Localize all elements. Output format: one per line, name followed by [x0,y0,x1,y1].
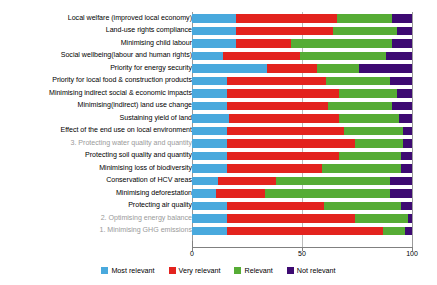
row-label: Minimising loss of biodiversity [2,164,192,173]
bar-track [192,114,412,123]
bar-segment-relevant [339,152,401,161]
legend-item[interactable]: Most relevant [101,266,154,275]
bar-track [192,27,412,36]
chart-row: Minimising deforestation [0,187,437,200]
bar-segment-most-relevant [192,214,227,223]
bar-segment-most-relevant [192,164,227,173]
bar-segment-not-relevant [390,77,412,86]
bar-segment-very-relevant [223,52,300,61]
bar-segment-very-relevant [267,64,318,73]
bar-track [192,89,412,98]
bar-segment-not-relevant [397,89,412,98]
legend-swatch-icon [234,267,241,274]
chart-row: Land-use rights compliance [0,25,437,38]
bar-segment-relevant [300,52,386,61]
row-label: Conservation of HCV areas [2,176,192,185]
bar-segment-very-relevant [227,164,322,173]
x-tick-label-0: 0 [190,250,194,257]
legend-item[interactable]: Relevant [234,266,272,275]
chart-row: 3. Protecting water quality and quantity [0,137,437,150]
bar-segment-most-relevant [192,89,227,98]
bar-segment-most-relevant [192,64,267,73]
bar-segment-relevant [322,164,401,173]
bar-segment-most-relevant [192,114,229,123]
chart-row: Sustaining yield of land [0,112,437,125]
bar-track [192,177,412,186]
legend-item[interactable]: Not relevant [287,266,336,275]
bar-segment-relevant [355,139,403,148]
bar-segment-very-relevant [227,227,383,236]
bar-segment-relevant [324,202,401,211]
bar-track [192,64,412,73]
bar-segment-relevant [326,77,390,86]
stacked-bar-chart: Local welfare (improved local economy)La… [0,0,437,285]
legend-label: Very relevant [179,266,221,275]
bar-track [192,14,412,23]
bar-segment-most-relevant [192,14,236,23]
bar-segment-not-relevant [390,189,412,198]
legend-label: Most relevant [111,266,154,275]
bar-segment-relevant [339,89,396,98]
row-label: Local welfare (improved local economy) [2,14,192,23]
bar-segment-most-relevant [192,139,227,148]
bar-segment-most-relevant [192,52,223,61]
bar-segment-very-relevant [216,189,264,198]
chart-row: Effect of the end use on local environme… [0,125,437,138]
bar-segment-relevant [333,27,397,36]
bar-segment-most-relevant [192,127,227,136]
bar-segment-not-relevant [392,102,412,111]
bar-segment-very-relevant [229,114,339,123]
bar-segment-very-relevant [227,77,326,86]
chart-row: Protecting air quality [0,200,437,213]
bar-segment-most-relevant [192,177,218,186]
bar-track [192,164,412,173]
bar-segment-not-relevant [403,127,412,136]
bar-track [192,77,412,86]
bar-segment-very-relevant [227,89,339,98]
bar-segment-most-relevant [192,102,227,111]
bar-segment-not-relevant [392,14,412,23]
bar-segment-not-relevant [359,64,412,73]
bar-segment-very-relevant [227,152,339,161]
bar-segment-very-relevant [236,14,337,23]
chart-row: Priority for local food & construction p… [0,75,437,88]
chart-row: Minimising(indirect) land use change [0,100,437,113]
bar-segment-not-relevant [386,52,412,61]
legend-item[interactable]: Very relevant [169,266,221,275]
row-label: Priority for energy security [2,64,192,73]
bar-track [192,202,412,211]
bar-segment-most-relevant [192,39,236,48]
chart-rows: Local welfare (improved local economy)La… [0,12,437,237]
bar-segment-not-relevant [401,202,412,211]
bar-segment-relevant [383,227,405,236]
row-label: 1. Minimising GHG emissions [2,226,192,235]
chart-row: Minimising loss of biodiversity [0,162,437,175]
bar-track [192,227,412,236]
bar-segment-very-relevant [236,39,291,48]
bar-segment-relevant [337,14,392,23]
bar-segment-very-relevant [227,127,344,136]
chart-legend: Most relevantVery relevantRelevantNot re… [0,266,437,275]
bar-segment-not-relevant [401,164,412,173]
bar-segment-very-relevant [227,139,355,148]
bar-segment-relevant [344,127,403,136]
bar-segment-very-relevant [218,177,275,186]
bar-segment-relevant [355,214,408,223]
bar-segment-relevant [291,39,392,48]
bar-segment-very-relevant [227,202,324,211]
row-label: Minimising child labour [2,39,192,48]
chart-row: Local welfare (improved local economy) [0,12,437,25]
row-label: Minimising indirect social & economic im… [2,89,192,98]
bar-segment-very-relevant [236,27,333,36]
row-label: Sustaining yield of land [2,114,192,123]
legend-swatch-icon [101,267,108,274]
bar-segment-not-relevant [390,177,412,186]
bar-track [192,52,412,61]
bar-track [192,139,412,148]
chart-row: Social wellbeing(labour and human rights… [0,50,437,63]
row-label: Minimising deforestation [2,189,192,198]
bar-track [192,189,412,198]
bar-track [192,152,412,161]
chart-row: Protecting soil quality and quantity [0,150,437,163]
bar-segment-most-relevant [192,202,227,211]
